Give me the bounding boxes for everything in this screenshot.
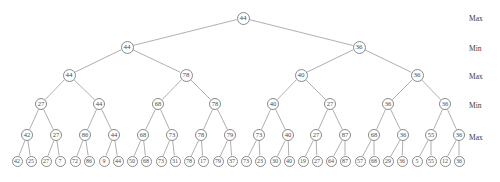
level-label-4: Max bbox=[469, 133, 483, 142]
level-label-3: Min bbox=[469, 101, 482, 110]
level-label-column: MaxMinMaxMinMax bbox=[0, 0, 500, 182]
min-max-heap-diagram: 4444364478403627446878402736364227864468… bbox=[0, 0, 500, 182]
level-label-1: Min bbox=[469, 44, 482, 53]
level-label-2: Max bbox=[469, 72, 483, 81]
level-label-0: Max bbox=[469, 14, 483, 23]
